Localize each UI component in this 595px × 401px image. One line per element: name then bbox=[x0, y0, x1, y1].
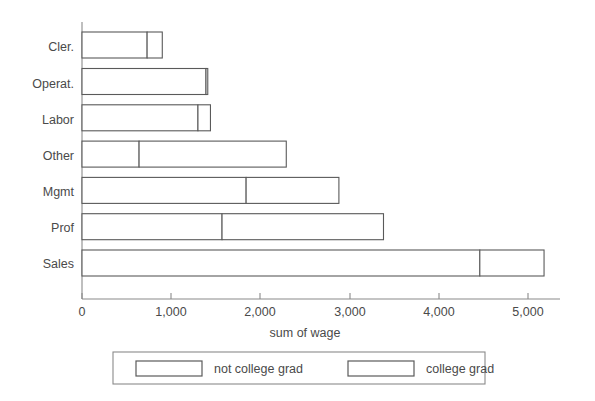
bar-segment-labor-college-grad[interactable] bbox=[198, 105, 210, 131]
bar-segment-other-not-college-grad[interactable] bbox=[82, 141, 139, 167]
x-axis-title: sum of wage bbox=[270, 326, 341, 340]
bar-segment-prof-college-grad[interactable] bbox=[222, 214, 383, 240]
bar-segment-sales-not-college-grad[interactable] bbox=[82, 250, 480, 276]
bar-segment-operat-not-college-grad[interactable] bbox=[82, 69, 206, 95]
x-tick-label: 3,000 bbox=[334, 305, 365, 319]
x-axis-ticks bbox=[82, 293, 528, 299]
bar-segment-other-college-grad[interactable] bbox=[139, 141, 286, 167]
bar-segment-operat-college-grad[interactable] bbox=[206, 69, 208, 95]
bar-group-labor bbox=[82, 105, 210, 131]
bar-segment-sales-college-grad[interactable] bbox=[480, 250, 544, 276]
x-tick-label: 4,000 bbox=[423, 305, 454, 319]
legend-label-not-college-grad: not college grad bbox=[214, 362, 303, 376]
x-tick-label: 2,000 bbox=[244, 305, 275, 319]
category-label-mgmt: Mgmt bbox=[43, 185, 75, 199]
chart-canvas: 0 1,000 2,000 3,000 4,000 5,000 sum of w… bbox=[0, 0, 595, 401]
legend-swatch-college-grad[interactable] bbox=[348, 361, 414, 376]
category-label-operat: Operat. bbox=[32, 77, 74, 91]
bar-chart-figure: 0 1,000 2,000 3,000 4,000 5,000 sum of w… bbox=[0, 0, 595, 401]
bar-group-sales bbox=[82, 250, 544, 276]
bar-segment-cler-not-college-grad[interactable] bbox=[82, 32, 147, 58]
category-label-cler: Cler. bbox=[48, 40, 74, 54]
bar-segment-prof-not-college-grad[interactable] bbox=[82, 214, 222, 240]
category-label-other: Other bbox=[43, 149, 74, 163]
bar-group-operat bbox=[82, 69, 208, 95]
x-tick-label: 0 bbox=[79, 305, 86, 319]
bar-group-cler bbox=[82, 32, 162, 58]
category-label-prof: Prof bbox=[51, 221, 74, 235]
x-tick-label: 1,000 bbox=[155, 305, 186, 319]
y-axis-category-labels: Cler. Operat. Labor Other Mgmt Prof Sale… bbox=[32, 40, 74, 271]
bar-segment-mgmt-college-grad[interactable] bbox=[246, 177, 339, 203]
x-axis-tick-labels: 0 1,000 2,000 3,000 4,000 5,000 bbox=[79, 305, 544, 319]
category-label-labor: Labor bbox=[42, 113, 74, 127]
bar-segment-cler-college-grad[interactable] bbox=[147, 32, 162, 58]
legend-label-college-grad: college grad bbox=[426, 362, 494, 376]
legend-swatch-not-college-grad[interactable] bbox=[136, 361, 202, 376]
bars-layer bbox=[82, 32, 544, 276]
bar-segment-mgmt-not-college-grad[interactable] bbox=[82, 177, 246, 203]
bar-group-mgmt bbox=[82, 177, 339, 203]
bar-segment-labor-not-college-grad[interactable] bbox=[82, 105, 198, 131]
x-tick-label: 5,000 bbox=[512, 305, 543, 319]
bar-group-prof bbox=[82, 214, 383, 240]
bar-group-other bbox=[82, 141, 286, 167]
category-label-sales: Sales bbox=[43, 257, 74, 271]
legend: not college grad college grad bbox=[113, 352, 494, 384]
